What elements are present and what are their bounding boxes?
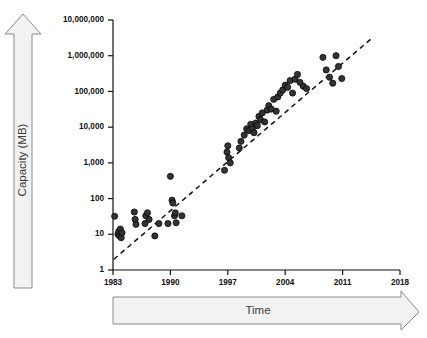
scatter-point bbox=[294, 71, 300, 77]
x-tick-label: 2018 bbox=[391, 278, 410, 287]
y-tick-label: 10,000,000 bbox=[63, 15, 104, 24]
x-axis-ticks: 198319901997200420112018 bbox=[104, 270, 410, 287]
scatter-point bbox=[320, 54, 326, 60]
scatter-points bbox=[112, 53, 345, 241]
y-tick-label: 100 bbox=[90, 194, 104, 203]
chart-canvas: Capacity (MB) Time 1101001,00010,000100,… bbox=[0, 0, 427, 338]
time-axis-arrow: Time bbox=[113, 291, 419, 330]
capacity-arrow-label: Capacity (MB) bbox=[16, 123, 28, 196]
scatter-point bbox=[335, 63, 341, 69]
y-tick-label: 1,000 bbox=[84, 158, 105, 167]
x-tick-label: 2011 bbox=[334, 278, 352, 287]
scatter-point bbox=[131, 209, 137, 215]
x-tick-label: 1983 bbox=[104, 278, 123, 287]
capacity-vs-time-chart: Capacity (MB) Time 1101001,00010,000100,… bbox=[0, 0, 427, 338]
scatter-point bbox=[254, 123, 260, 129]
scatter-point bbox=[179, 213, 185, 219]
scatter-point bbox=[251, 130, 257, 136]
scatter-point bbox=[152, 233, 158, 239]
capacity-axis-arrow: Capacity (MB) bbox=[5, 14, 41, 288]
plot-axes bbox=[113, 20, 400, 270]
x-tick-label: 2004 bbox=[276, 278, 295, 287]
scatter-point bbox=[333, 53, 339, 59]
y-tick-label: 10,000 bbox=[79, 122, 104, 131]
scatter-point bbox=[238, 138, 244, 144]
scatter-point bbox=[119, 230, 125, 236]
y-axis-ticks: 1101001,00010,000100,0001,000,00010,000,… bbox=[63, 15, 113, 274]
scatter-point bbox=[236, 145, 242, 151]
scatter-point bbox=[170, 200, 176, 206]
scatter-point bbox=[172, 210, 178, 216]
scatter-point bbox=[303, 86, 309, 92]
scatter-point bbox=[227, 160, 233, 166]
scatter-point bbox=[144, 210, 150, 216]
scatter-point bbox=[273, 108, 279, 114]
y-tick-label: 10 bbox=[95, 229, 105, 238]
x-tick-label: 1997 bbox=[219, 278, 238, 287]
scatter-point bbox=[167, 173, 173, 179]
x-tick-label: 1990 bbox=[161, 278, 180, 287]
scatter-point bbox=[225, 143, 231, 149]
scatter-point bbox=[289, 90, 295, 96]
scatter-point bbox=[112, 213, 118, 219]
scatter-point bbox=[133, 221, 139, 227]
scatter-point bbox=[339, 75, 345, 81]
scatter-point bbox=[241, 132, 247, 138]
time-arrow-label: Time bbox=[245, 304, 270, 316]
y-tick-label: 1 bbox=[99, 265, 104, 274]
scatter-point bbox=[146, 216, 152, 222]
scatter-point bbox=[165, 220, 171, 226]
y-tick-label: 100,000 bbox=[74, 87, 104, 96]
y-tick-label: 1,000,000 bbox=[68, 51, 105, 60]
scatter-point bbox=[323, 67, 329, 73]
scatter-point bbox=[326, 74, 332, 80]
scatter-point bbox=[156, 220, 162, 226]
scatter-point bbox=[221, 167, 227, 173]
scatter-point bbox=[262, 119, 268, 125]
scatter-point bbox=[285, 84, 291, 90]
scatter-point bbox=[330, 80, 336, 86]
scatter-point bbox=[173, 220, 179, 226]
